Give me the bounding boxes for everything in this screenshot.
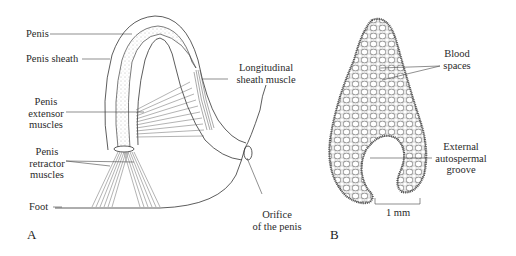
panel-b-drawing	[329, 19, 440, 204]
label-line: groove	[432, 164, 490, 176]
label-line: muscles	[26, 119, 66, 131]
label-line: External	[432, 141, 490, 153]
label-line: sheath muscle	[230, 74, 302, 86]
scale-bar-label: 1 mm	[378, 207, 418, 219]
label-penis: Penis	[26, 28, 49, 40]
label-line: extensor	[26, 108, 66, 120]
panel-letter-b: B	[330, 227, 339, 243]
label-line: Penis	[26, 146, 68, 158]
panel-letter-a: A	[27, 227, 36, 243]
label-orifice-of-the-penis: Orifice of the penis	[248, 209, 306, 232]
label-blood-spaces: Blood spaces	[440, 48, 474, 71]
label-line: muscles	[26, 169, 68, 181]
label-line: Orifice	[248, 209, 306, 221]
label-longitudinal-sheath-muscle: Longitudinal sheath muscle	[230, 62, 302, 85]
label-external-autospermal-groove: External autospermal groove	[432, 141, 490, 176]
label-line: Blood	[440, 48, 474, 60]
label-foot: Foot	[29, 201, 48, 213]
panel-a-drawing	[50, 16, 266, 208]
label-penis-sheath: Penis sheath	[26, 53, 78, 65]
label-penis-extensor-muscles: Penis extensor muscles	[26, 96, 66, 131]
label-line: Penis	[26, 96, 66, 108]
label-line: spaces	[440, 60, 474, 72]
label-penis-retractor-muscles: Penis retractor muscles	[26, 146, 68, 181]
label-line: autospermal	[432, 153, 490, 165]
label-line: Longitudinal	[230, 62, 302, 74]
label-line: of the penis	[248, 221, 306, 233]
label-line: retractor	[26, 158, 68, 170]
